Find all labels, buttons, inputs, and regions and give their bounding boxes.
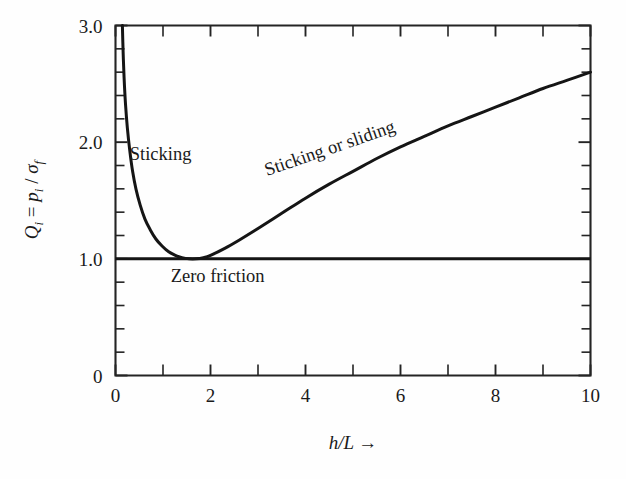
y-axis-title: Qi = pi / σf: [21, 158, 46, 239]
x-tick-label: 4: [301, 385, 311, 406]
x-axis-title-hl: h/L: [329, 432, 354, 453]
y-tick-label: 0: [93, 366, 103, 387]
y-axis-title-eq: =: [21, 202, 42, 222]
y-axis-tick-labels: 01.02.03.0: [79, 16, 103, 387]
y-tick-label: 2.0: [79, 132, 103, 153]
svg-text:h/L→: h/L→: [329, 432, 377, 453]
figure-canvas: 0246810 01.02.03.0 StickingSticking or s…: [0, 0, 626, 479]
x-tick-label: 0: [111, 385, 121, 406]
plot-frame: [116, 26, 591, 376]
x-axis-minor-ticks: [163, 26, 543, 376]
x-tick-label: 8: [491, 385, 501, 406]
y-axis-title-sigma-sub: f: [31, 158, 46, 164]
x-tick-label: 10: [581, 385, 600, 406]
x-tick-label: 2: [206, 385, 216, 406]
x-axis-major-ticks: [116, 26, 591, 376]
y-axis-title-q: Q: [21, 225, 42, 239]
chart-annotation-label: Zero friction: [171, 266, 265, 286]
y-axis-major-ticks: [116, 26, 591, 376]
y-axis-title-p: p: [21, 192, 42, 204]
x-tick-label: 6: [396, 385, 406, 406]
x-axis-title-arrow: →: [358, 432, 377, 453]
chart-annotation-label: Sticking or sliding: [262, 116, 398, 179]
y-tick-label: 3.0: [79, 16, 103, 37]
y-tick-label: 1.0: [79, 249, 103, 270]
y-axis-title-slash: /: [21, 174, 42, 189]
x-axis-title: h/L→: [329, 432, 377, 453]
chart-annotations: StickingSticking or slidingZero friction: [130, 116, 398, 286]
x-axis-tick-labels: 0246810: [111, 385, 600, 406]
axis-frame: [116, 26, 591, 376]
y-axis-minor-ticks: [116, 49, 591, 352]
svg-text:Qi = pi / σf: Qi = pi / σf: [21, 158, 46, 239]
chart-annotation-label: Sticking: [130, 144, 192, 164]
chart-plot: 0246810 01.02.03.0 StickingSticking or s…: [0, 0, 626, 479]
